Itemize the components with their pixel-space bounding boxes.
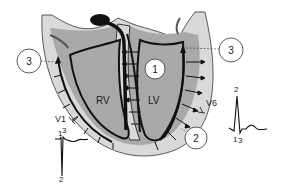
rv-label: RV [96,95,110,106]
heart-diagram: RV LV 1 2 3 3 V1 1 3 2 V6 2 1 3 [0,0,281,191]
v6-wave-end: 3 [238,136,243,145]
callout-1-label: 1 [152,64,158,75]
v1-label: V1 [55,114,66,124]
v6-wave-peak: 2 [234,85,239,94]
callout-3-left-label: 3 [26,56,32,67]
v1-wave-nadir: 2 [59,175,64,184]
v6-ecg-trace [229,96,267,133]
v1-ecg-trace [55,137,88,176]
v6-label: V6 [206,98,217,108]
callout-3-right-label: 3 [228,45,234,56]
callout-2-label: 2 [193,133,199,144]
v1-wave-peak: 3 [62,126,67,135]
mitral-leaflet [177,18,180,34]
lv-label: LV [148,95,160,106]
